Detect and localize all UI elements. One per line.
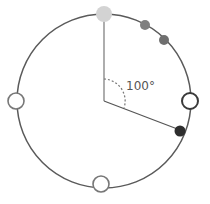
point-left <box>8 93 24 109</box>
point-upper-right-1 <box>140 20 150 30</box>
radius-line-angled <box>104 101 180 130</box>
point-top <box>96 6 112 22</box>
angle-arc <box>104 79 125 108</box>
angle-label: 100° <box>126 79 155 93</box>
point-bottom <box>93 176 109 192</box>
point-lower-right <box>175 126 186 137</box>
point-upper-right-2 <box>159 35 169 45</box>
circle-angle-diagram: 100° <box>0 0 210 204</box>
point-right <box>182 93 198 109</box>
